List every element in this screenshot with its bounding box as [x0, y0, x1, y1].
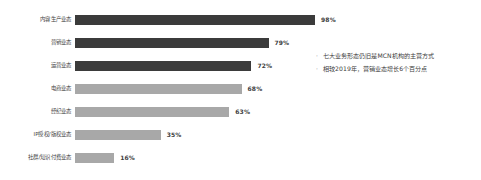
bar-track: 68% — [75, 77, 340, 100]
horizontal-bar-chart: 内容生产业态98%营销业态79%运营业态72%电商业态68%经纪业态63%IP授… — [0, 8, 340, 176]
note-text: 七大业务形态仍旧是MCN机构的主营方式 — [323, 49, 478, 62]
bar-fill — [75, 130, 161, 140]
bar-fill — [75, 107, 229, 117]
bar-value-label: 79% — [275, 37, 290, 48]
bar-fill — [75, 38, 269, 48]
bar-category-label: 内容生产业态 — [0, 16, 75, 22]
bar-value-label: 68% — [248, 83, 263, 94]
bar-track: 63% — [75, 100, 340, 123]
bar-category-label: 经纪业态 — [0, 108, 75, 114]
bar-fill — [75, 84, 242, 94]
bar-category-label: IP授权/版权业态 — [0, 131, 75, 137]
bar-category-label: 电商业态 — [0, 85, 75, 91]
bar-track: 79% — [75, 31, 340, 54]
bar-fill — [75, 153, 114, 163]
bar-category-label: 运营业态 — [0, 62, 75, 68]
bar-value-label: 35% — [167, 129, 182, 140]
bar-category-label: 营销业态 — [0, 39, 75, 45]
bar-value-label: 98% — [321, 14, 336, 25]
bar-row: 内容生产业态98% — [0, 8, 340, 31]
note-text: 相较2019年，营销业态增长6个百分点 — [323, 62, 478, 75]
bar-value-label: 63% — [235, 106, 250, 117]
bar-row: 电商业态68% — [0, 77, 340, 100]
note-item: ·相较2019年，营销业态增长6个百分点 — [316, 62, 478, 75]
bar-category-label: 社群/知识付费业态 — [0, 154, 75, 160]
slide-canvas: 内容生产业态98%营销业态79%运营业态72%电商业态68%经纪业态63%IP授… — [0, 0, 481, 180]
note-item: ·七大业务形态仍旧是MCN机构的主营方式 — [316, 49, 478, 62]
bullet-icon: · — [316, 62, 323, 75]
bar-track: 16% — [75, 146, 340, 169]
bar-row: IP授权/版权业态35% — [0, 123, 340, 146]
bar-row: 社群/知识付费业态16% — [0, 146, 340, 169]
bar-fill — [75, 61, 251, 71]
bar-row: 经纪业态63% — [0, 100, 340, 123]
bar-fill — [75, 15, 315, 25]
bar-row: 运营业态72% — [0, 54, 340, 77]
bar-value-label: 72% — [257, 60, 272, 71]
bar-track: 35% — [75, 123, 340, 146]
bullet-icon: · — [316, 49, 323, 62]
notes-list: ·七大业务形态仍旧是MCN机构的主营方式·相较2019年，营销业态增长6个百分点 — [316, 49, 478, 75]
bar-track: 98% — [75, 8, 340, 31]
bar-row: 营销业态79% — [0, 31, 340, 54]
bar-value-label: 16% — [120, 152, 135, 163]
bar-track: 72% — [75, 54, 340, 77]
